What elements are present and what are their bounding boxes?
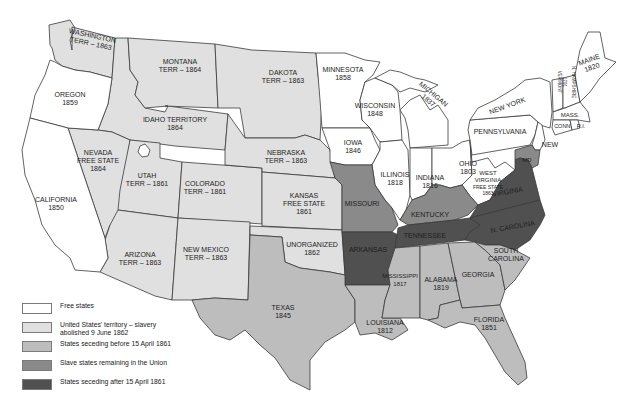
svg-text:R.I.: R.I.: [577, 123, 586, 129]
svg-text:NEBRASKATERR – 1863: NEBRASKATERR – 1863: [265, 149, 308, 164]
region-utah: [118, 140, 182, 218]
svg-text:MD: MD: [522, 157, 532, 163]
svg-text:NEW MEXICOTERR – 1863: NEW MEXICOTERR – 1863: [183, 246, 229, 261]
legend-label: Free states: [60, 302, 94, 310]
svg-text:SOUTHCAROLINA: SOUTHCAROLINA: [488, 247, 524, 262]
svg-text:NEW: NEW: [542, 141, 559, 148]
svg-text:GEORGIA: GEORGIA: [462, 271, 495, 278]
legend-label: States seceding after 15 April 1861: [60, 378, 165, 386]
legend-item-seceding-after: States seceding after 15 April 1861: [22, 378, 242, 397]
region-florida: [428, 300, 527, 385]
legend-swatch-slave-union: [22, 360, 52, 371]
svg-text:OHIO1803: OHIO1803: [459, 160, 477, 175]
svg-text:CONN.: CONN.: [554, 123, 572, 129]
legend-item-territory: United States' territory – slavery aboli…: [22, 321, 242, 340]
svg-text:IOWA1846: IOWA1846: [344, 139, 363, 154]
legend-label: Slave states remaining in the Union: [60, 359, 167, 367]
legend-item-free-states: Free states: [22, 302, 242, 321]
svg-text:PENNSYLVANIA: PENNSYLVANIA: [474, 128, 527, 135]
svg-text:MASS.: MASS.: [561, 112, 580, 118]
legend-item-slave-union: Slave states remaining in the Union: [22, 359, 242, 378]
legend-swatch-territory: [22, 322, 52, 333]
legend-swatch-seceding-before: [22, 341, 52, 352]
svg-text:ARKANSAS: ARKANSAS: [349, 246, 387, 253]
region-montana: [128, 38, 218, 108]
svg-text:MONTANATERR – 1864: MONTANATERR – 1864: [159, 58, 202, 73]
svg-text:KENTUCKY: KENTUCKY: [411, 211, 449, 218]
svg-text:COLORADOTERR – 1861: COLORADOTERR – 1861: [184, 180, 227, 195]
map-legend: Free states United States' territory – s…: [22, 302, 242, 397]
svg-text:TENNESSEE: TENNESSEE: [404, 232, 447, 239]
legend-swatch-free: [22, 303, 52, 314]
legend-label: United States' territory – slavery aboli…: [60, 321, 165, 337]
svg-text:MISSOURI: MISSOURI: [345, 200, 380, 207]
legend-item-seceding-before: States seceding before 15 April 1861: [22, 340, 242, 359]
svg-text:ARIZONATERR – 1863: ARIZONATERR – 1863: [119, 251, 162, 266]
legend-swatch-seceding-after: [22, 379, 52, 390]
svg-text:N. HAMPSHIRE: N. HAMPSHIRE: [571, 66, 576, 99]
legend-label: States seceding before 15 April 1861: [60, 340, 171, 348]
